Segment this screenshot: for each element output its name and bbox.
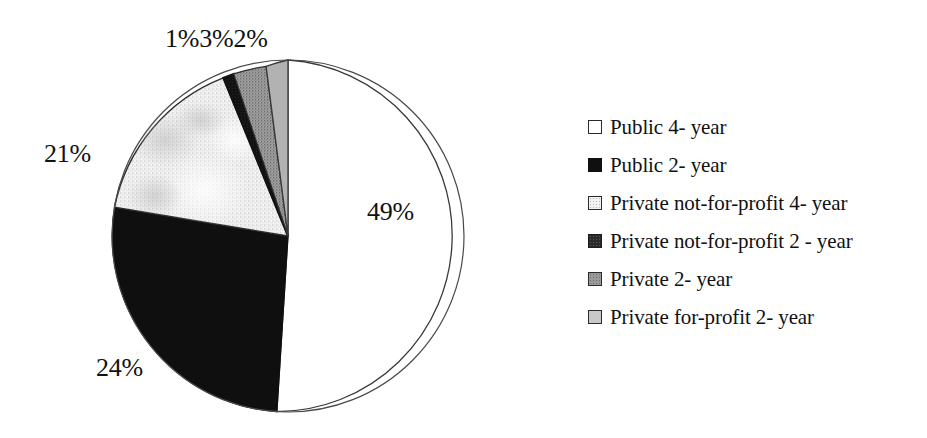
slice-value-label-21: 21% [44,141,91,167]
legend-item-private-2-year: Private 2- year [588,260,908,298]
legend-label-private-2-year: Private 2- year [610,269,732,290]
pie-slice-public-4-year [277,60,452,412]
legend-label-public-2-year: Public 2- year [610,155,726,176]
pie-chart-figure: 49% 24% 21% 1% 3% 2% Public 4- year Publ… [0,0,927,438]
legend-swatch-public-2-year [588,158,602,172]
legend-swatch-private-nfp-4-year [588,196,602,210]
slice-value-label-2: 2% [234,26,268,52]
slice-value-label-3: 3% [199,26,233,52]
legend-label-private-nfp-4-year: Private not-for-profit 4- year [610,193,847,214]
slice-value-label-49: 49% [367,199,414,225]
legend-item-private-fp-2-year: Private for-profit 2- year [588,298,908,336]
legend-label-private-fp-2-year: Private for-profit 2- year [610,307,814,328]
legend-swatch-public-4-year [588,120,602,134]
legend-swatch-private-nfp-2-year [588,234,602,248]
legend-swatch-private-fp-2-year [588,310,602,324]
slice-value-label-1: 1% [165,26,199,52]
legend-item-private-nfp-4-year: Private not-for-profit 4- year [588,184,908,222]
top-slice-labels: 1% 3% 2% [165,26,268,52]
slice-value-label-24: 24% [96,355,143,381]
legend-item-private-nfp-2-year: Private not-for-profit 2 - year [588,222,908,260]
legend-item-public-2-year: Public 2- year [588,146,908,184]
legend-label-private-nfp-2-year: Private not-for-profit 2 - year [610,231,853,252]
legend-swatch-private-2-year [588,272,602,286]
legend-item-public-4-year: Public 4- year [588,108,908,146]
legend-label-public-4-year: Public 4- year [610,117,726,138]
chart-legend: Public 4- year Public 2- year Private no… [588,108,908,336]
